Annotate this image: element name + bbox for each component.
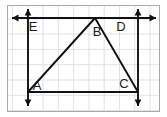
geometry-figure-container: A B C D E [0,0,167,117]
vertex-label-d: D [116,19,125,34]
vertex-label-e: E [29,19,38,34]
geometry-figure-svg: A B C D E [0,0,167,117]
vertex-label-c: C [119,76,128,91]
vertex-label-b: B [93,24,102,39]
vertex-label-a: A [33,78,42,93]
